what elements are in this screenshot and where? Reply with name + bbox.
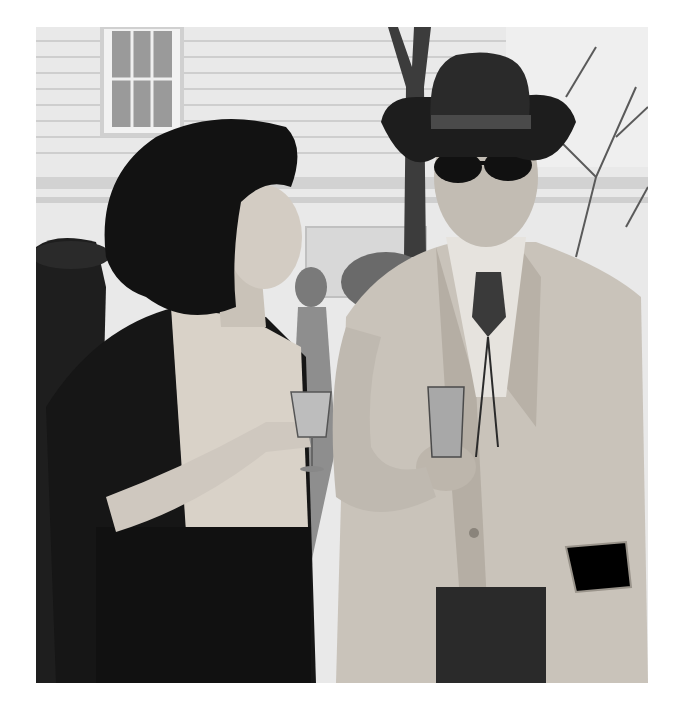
photograph <box>36 27 648 683</box>
photo-illustration <box>36 27 648 683</box>
woman-glass <box>291 392 331 437</box>
woman-skirt <box>96 527 311 683</box>
man-glass <box>428 387 464 457</box>
